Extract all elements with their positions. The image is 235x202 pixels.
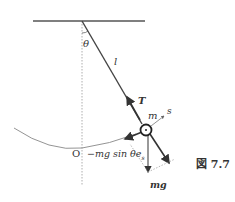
normal-component-arrow	[150, 134, 169, 163]
restoring-force-arrow	[125, 132, 142, 139]
length-label: l	[114, 57, 117, 67]
origin-label: O	[72, 149, 80, 159]
s-axis-label: s	[167, 107, 172, 116]
theta-arc	[82, 31, 88, 33]
theta-label: θ	[83, 39, 89, 49]
figure-caption: 図 7.7	[196, 159, 230, 170]
trajectory-arc	[14, 128, 136, 149]
mass-label: m	[148, 111, 157, 121]
pendulum-diagram	[0, 0, 235, 202]
gravity-label: mg	[150, 180, 167, 190]
tension-label: T	[138, 96, 145, 106]
component-guide-1	[148, 159, 175, 172]
pendulum-figure: θ l T m s O −mg sin θes mg 図 7.7	[0, 0, 235, 202]
restoring-force-label: −mg sin θes	[87, 149, 145, 161]
